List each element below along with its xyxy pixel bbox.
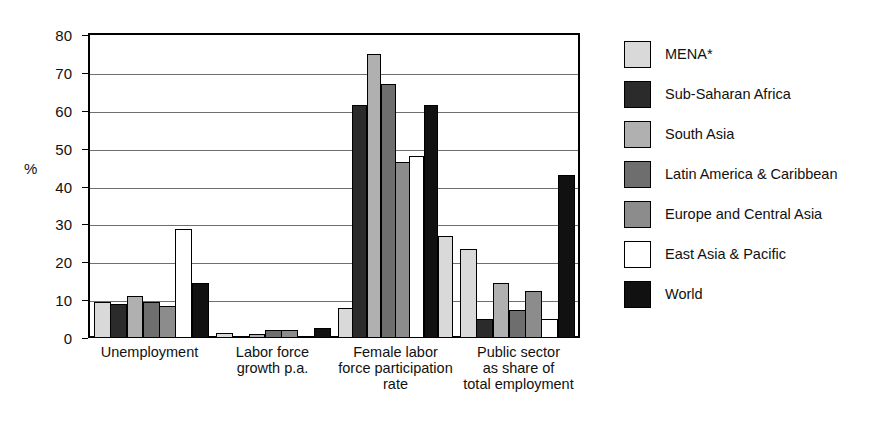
y-axis-tick-label: 0: [2, 331, 72, 346]
bar: [381, 84, 396, 338]
y-axis-tick-label: 20: [2, 255, 72, 270]
bar: [460, 249, 477, 338]
y-axis-tick-mark: [82, 338, 88, 339]
bar: [94, 302, 111, 338]
legend-swatch: [624, 201, 651, 228]
bar: [395, 162, 410, 338]
bar-group: [456, 35, 578, 338]
bar: [541, 319, 558, 338]
bar: [127, 296, 144, 338]
bar-group: [334, 35, 456, 338]
bar: [338, 308, 353, 338]
bar-group: [212, 35, 334, 338]
y-axis-tick-label: 40: [2, 180, 72, 195]
legend-label: Sub-Saharan Africa: [665, 86, 791, 102]
y-axis-tick-label: 80: [2, 28, 72, 43]
bar: [352, 105, 367, 338]
bar-series-layer: [90, 35, 578, 338]
bar-group: [90, 35, 212, 338]
legend-label: East Asia & Pacific: [665, 246, 786, 262]
legend-label: World: [665, 286, 703, 302]
legend-swatch: [624, 81, 651, 108]
bar: [409, 156, 424, 338]
bar: [265, 330, 282, 338]
legend-item[interactable]: MENA*: [624, 34, 874, 74]
bar: [110, 304, 127, 338]
legend: MENA*Sub-Saharan AfricaSouth AsiaLatin A…: [624, 34, 874, 314]
legend-swatch: [624, 161, 651, 188]
bar: [143, 302, 160, 338]
bar: [232, 336, 249, 338]
bar: [314, 328, 331, 338]
y-axis-ticks: 01020304050607080: [0, 33, 80, 338]
legend-swatch: [624, 121, 651, 148]
bar: [297, 336, 314, 338]
x-axis-group-label: Labor force growth p.a.: [211, 344, 334, 376]
bar: [438, 236, 453, 338]
legend-item[interactable]: Latin America & Caribbean: [624, 154, 874, 194]
plot-area: % 01020304050607080 UnemploymentLabor fo…: [0, 0, 600, 436]
bar: [558, 175, 575, 338]
bar: [249, 334, 266, 338]
bar: [175, 229, 192, 338]
bar: [281, 330, 298, 338]
y-axis-tick-label: 50: [2, 142, 72, 157]
legend-label: Europe and Central Asia: [665, 206, 822, 222]
legend-item[interactable]: Sub-Saharan Africa: [624, 74, 874, 114]
y-axis-tick-label: 60: [2, 104, 72, 119]
x-axis-group-label: Female labor force participation rate: [334, 344, 457, 392]
chart-figure: % 01020304050607080 UnemploymentLabor fo…: [0, 0, 878, 436]
legend-swatch: [624, 241, 651, 268]
legend-swatch: [624, 41, 651, 68]
legend-item[interactable]: East Asia & Pacific: [624, 234, 874, 274]
bar: [367, 54, 382, 338]
legend-label: Latin America & Caribbean: [665, 166, 838, 182]
bar: [192, 283, 209, 338]
bar: [159, 306, 176, 338]
bar: [476, 319, 493, 338]
x-axis-group-label: Public sector as share of total employme…: [457, 344, 580, 392]
y-axis-tick-label: 30: [2, 217, 72, 232]
legend-label: South Asia: [665, 126, 734, 142]
legend-item[interactable]: World: [624, 274, 874, 314]
bar: [493, 283, 510, 338]
bar: [525, 291, 542, 338]
legend-swatch: [624, 281, 651, 308]
legend-item[interactable]: Europe and Central Asia: [624, 194, 874, 234]
bar: [216, 333, 233, 338]
x-axis-group-label: Unemployment: [88, 344, 211, 360]
legend-item[interactable]: South Asia: [624, 114, 874, 154]
y-axis-tick-label: 10: [2, 293, 72, 308]
legend-label: MENA*: [665, 46, 713, 62]
y-axis-tick-label: 70: [2, 66, 72, 81]
bar: [424, 105, 439, 338]
bar: [509, 310, 526, 338]
